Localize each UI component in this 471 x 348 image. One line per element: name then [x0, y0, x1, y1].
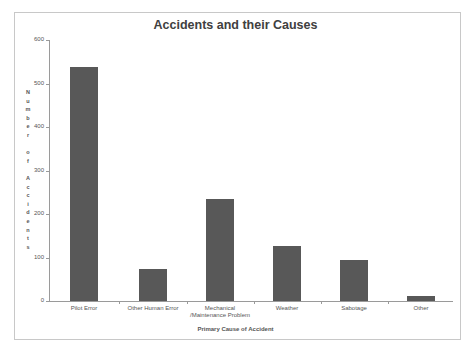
x-tick-label: Sabotage [320, 305, 388, 312]
x-tick [254, 301, 255, 304]
y-tick [46, 171, 49, 172]
bar-1 [139, 269, 167, 301]
y-tick-label: 100 [20, 254, 44, 260]
bar-4 [340, 260, 368, 301]
y-axis-title: Number of Accidents [24, 88, 32, 251]
x-tick-label: Pilot Error [50, 305, 118, 312]
bar-3 [273, 246, 301, 301]
y-axis [49, 40, 50, 301]
y-tick [46, 258, 49, 259]
y-tick-label: 600 [20, 36, 44, 42]
x-tick [187, 301, 188, 304]
y-tick-label: 0 [20, 297, 44, 303]
x-tick-label: Mechanical/Maintenance Problem [186, 305, 254, 319]
bar-5 [407, 296, 435, 301]
y-tick-label: 500 [20, 80, 44, 86]
bar-0 [70, 67, 98, 301]
y-tick [46, 301, 49, 302]
y-tick [46, 214, 49, 215]
x-tick [388, 301, 389, 304]
x-tick [321, 301, 322, 304]
bar-2 [206, 199, 234, 301]
y-tick [46, 127, 49, 128]
x-tick-label: Other [387, 305, 455, 312]
x-tick [119, 301, 120, 304]
x-tick-label: Other Human Error [119, 305, 187, 312]
y-tick [46, 84, 49, 85]
x-tick-label: Weather [253, 305, 321, 312]
y-tick [46, 40, 49, 41]
x-axis-title: Primary Cause of Accident [0, 326, 471, 332]
chart-title: Accidents and their Causes [0, 18, 471, 32]
x-axis [46, 301, 453, 302]
